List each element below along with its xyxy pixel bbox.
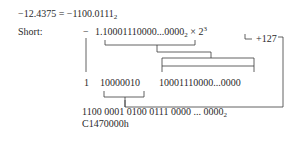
mantissa-bracket: [105, 40, 195, 45]
exponent-to-bias: [245, 34, 252, 39]
bias-bracket: [125, 37, 283, 107]
fraction-top-bar: [162, 58, 254, 66]
fraction-bracket: [162, 66, 254, 72]
mantissa-to-fraction: [157, 45, 211, 58]
exponent-bracket: [104, 91, 144, 97]
connector-lines: [0, 0, 303, 143]
